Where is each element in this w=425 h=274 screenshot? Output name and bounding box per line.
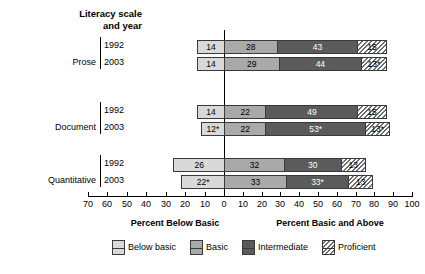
legend-item-below[interactable]: Below basic — [112, 240, 176, 255]
bar-segment-below: 14 — [197, 57, 225, 71]
bar-segment-intermediate: 33* — [286, 175, 349, 189]
legend-swatch-proficient — [322, 240, 335, 255]
bar-segment-below: 26 — [173, 158, 225, 172]
bar-row: 12*2253*13* — [201, 122, 391, 136]
bar-segment-value: 43 — [313, 43, 322, 52]
legend-swatch-basic — [190, 240, 203, 255]
x-axis-line — [88, 196, 413, 197]
legend-item-basic[interactable]: Basic — [190, 240, 228, 255]
bar-segment-value: 15 — [366, 43, 377, 52]
legend-swatch-below — [112, 240, 125, 255]
bar-row: 14284315 — [197, 40, 387, 54]
x-axis-tick — [337, 192, 338, 196]
bar-segment-proficient: 13 — [348, 175, 373, 189]
legend-item-proficient[interactable]: Proficient — [322, 240, 376, 255]
bar-segment-value: 53* — [309, 125, 322, 134]
legend-label-intermediate: Intermediate — [258, 243, 308, 252]
x-axis-tick — [88, 192, 89, 196]
literacy-stacked-bar-chart: Literacy scale and year Prose 1992 2003 … — [0, 0, 425, 274]
legend-label-below: Below basic — [128, 243, 176, 252]
bar-segment-intermediate: 53* — [265, 122, 366, 136]
bar-segment-below: 12* — [201, 122, 225, 136]
bar-segment-value: 22 — [240, 108, 249, 117]
bar-segment-proficient: 13 — [341, 158, 366, 172]
x-axis-tick — [374, 192, 375, 196]
bar-segment-value: 13 — [355, 178, 366, 187]
x-axis-tick — [127, 192, 128, 196]
bar-segment-value: 33 — [251, 178, 260, 187]
x-axis-tick — [299, 192, 300, 196]
bar-segment-value: 44 — [316, 60, 325, 69]
legend-label-proficient: Proficient — [338, 243, 376, 252]
bar-segment-value: 14 — [206, 108, 215, 117]
bar-segment-proficient: 13* — [365, 122, 390, 136]
bar-segment-intermediate: 43 — [277, 40, 359, 54]
bar-segment-value: 13* — [367, 60, 382, 69]
x-axis-tick — [224, 192, 225, 196]
legend-label-basic: Basic — [206, 243, 228, 252]
x-axis-tick — [185, 192, 186, 196]
bar-segment-proficient: 13* — [361, 57, 386, 71]
bar-segment-value: 15 — [366, 108, 377, 117]
bar-segment-value: 33* — [311, 178, 324, 187]
x-axis-tick — [393, 192, 394, 196]
bar-segment-intermediate: 49 — [265, 105, 358, 119]
bar-segment-value: 49 — [307, 108, 316, 117]
chart-legend: Below basicBasicIntermediateProficient — [112, 240, 390, 255]
bar-segment-value: 30 — [308, 161, 317, 170]
bar-segment-basic: 28 — [224, 40, 278, 54]
x-axis-tick — [243, 192, 244, 196]
bar-segment-value: 13* — [370, 125, 385, 134]
bar-row: 14224915 — [197, 105, 387, 119]
x-axis-tick-label: 100 — [400, 200, 424, 209]
bar-segment-value: 22* — [197, 178, 210, 187]
bar-segment-value: 26 — [195, 161, 204, 170]
plot-area: 1428431514294413*1422491512*2253*13*2632… — [0, 0, 425, 274]
bar-segment-value: 32 — [250, 161, 259, 170]
x-axis-tick — [166, 192, 167, 196]
bar-segment-intermediate: 30 — [284, 158, 341, 172]
bar-segment-value: 22 — [240, 125, 249, 134]
bar-segment-basic: 29 — [224, 57, 280, 71]
x-axis-tick — [318, 192, 319, 196]
bar-segment-proficient: 15 — [357, 40, 386, 54]
x-axis-tick — [356, 192, 357, 196]
bar-row: 26323013 — [173, 158, 365, 172]
bar-row: 14294413* — [197, 57, 387, 71]
bar-segment-value: 28 — [246, 43, 255, 52]
bar-segment-value: 14 — [206, 43, 215, 52]
bar-segment-basic: 32 — [224, 158, 285, 172]
x-axis-tick — [205, 192, 206, 196]
x-axis-tick — [412, 192, 413, 196]
bar-segment-below: 14 — [197, 40, 225, 54]
bar-segment-value: 13 — [348, 161, 359, 170]
x-axis-title-left: Percent Below Basic — [100, 218, 250, 228]
legend-swatch-intermediate — [242, 240, 255, 255]
legend-item-intermediate[interactable]: Intermediate — [242, 240, 308, 255]
bar-segment-value: 29 — [247, 60, 256, 69]
x-axis-tick — [146, 192, 147, 196]
bar-segment-value: 12* — [206, 125, 219, 134]
bar-segment-intermediate: 44 — [279, 57, 363, 71]
bar-segment-basic: 22 — [224, 105, 266, 119]
bar-segment-basic: 33 — [224, 175, 287, 189]
bar-segment-value: 14 — [206, 60, 215, 69]
bar-row: 22*3333*13 — [181, 175, 373, 189]
x-axis-tick — [280, 192, 281, 196]
bar-segment-basic: 22 — [224, 122, 266, 136]
x-axis-tick — [262, 192, 263, 196]
bar-segment-below: 14 — [197, 105, 225, 119]
x-axis-tick — [107, 192, 108, 196]
bar-segment-below: 22* — [181, 175, 225, 189]
bar-segment-proficient: 15 — [357, 105, 386, 119]
x-axis-title-right: Percent Basic and Above — [240, 218, 420, 228]
